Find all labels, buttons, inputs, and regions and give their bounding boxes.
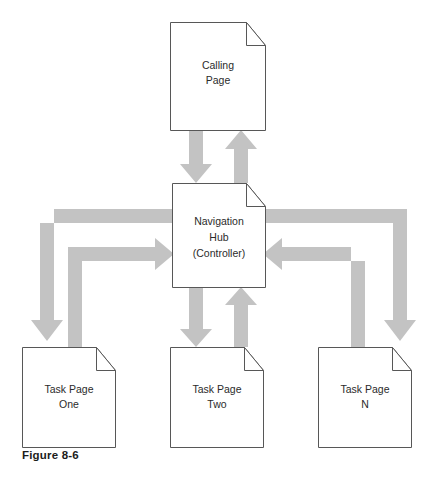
arrow-calling-to-hub [180,130,212,183]
arrow-task-one-to-hub [68,238,174,347]
navigation-hub-fold-icon [247,184,266,207]
node-navigation-hub[interactable]: Navigation Hub (Controller) [173,184,266,288]
arrow-hub-to-task-one [31,209,172,341]
task-page-n-label-line-1: Task Page [340,383,389,395]
task-page-two-label-line-1: Task Page [192,383,241,395]
arrow-hub-to-task-two [180,287,212,347]
figure-caption: Figure 8-6 [22,449,79,461]
navigation-hub-diagram: Calling Page Navigation Hub (Controller)… [0,0,433,484]
calling-page-fold-icon [247,23,266,46]
calling-page-label-line-2: Page [206,74,231,86]
navigation-hub-label-line-2: Hub [209,231,228,243]
arrow-hub-to-task-n [265,209,416,341]
navigation-hub-label-line-3: (Controller) [193,247,246,259]
task-page-two-label-line-2: Two [207,398,226,410]
arrow-task-two-to-hub [225,287,257,347]
task-page-n-label-line-2: N [361,398,369,410]
arrow-task-n-to-hub [263,238,365,347]
node-task-page-one[interactable]: Task Page One [23,348,116,448]
task-page-one-label-line-1: Task Page [44,383,93,395]
node-calling-page[interactable]: Calling Page [171,23,266,131]
node-task-page-two[interactable]: Task Page Two [171,348,264,448]
task-page-two-fold-icon [245,348,264,371]
figure-8-6: Calling Page Navigation Hub (Controller)… [0,0,433,484]
navigation-hub-label-line-1: Navigation [194,215,244,227]
task-page-one-label-line-2: One [59,398,79,410]
task-page-one-fold-icon [97,348,116,371]
arrow-hub-to-calling [225,130,257,183]
calling-page-label-line-1: Calling [202,59,234,71]
node-task-page-n[interactable]: Task Page N [319,348,412,448]
task-page-n-fold-icon [393,348,412,371]
